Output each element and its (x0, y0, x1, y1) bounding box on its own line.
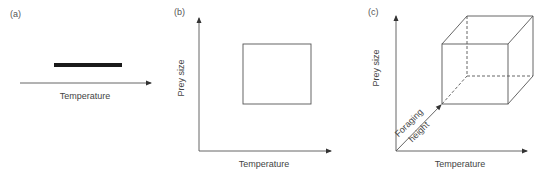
cube-edge (508, 16, 533, 44)
prey-size-axis-label: Prey size (176, 59, 186, 96)
panel-b-label: (b) (174, 7, 185, 17)
panel-c: (c) Prey size Foraging height Temperatur… (368, 7, 533, 169)
niche-dimension-figure: (a) Temperature (b) Prey size Temperatur… (0, 0, 546, 178)
panel-c-label: (c) (368, 7, 379, 17)
prey-size-axis-label: Prey size (371, 49, 381, 86)
panel-b: (b) Prey size Temperature (174, 7, 331, 169)
temperature-range-bar (54, 63, 122, 67)
temperature-axis-label: Temperature (239, 159, 290, 169)
panel-a: (a) Temperature (10, 9, 151, 101)
cube-front-face (442, 44, 508, 104)
temperature-axis-label: Temperature (435, 159, 486, 169)
cube-edge (508, 76, 533, 104)
niche-rectangle (243, 44, 311, 104)
niche-cube (442, 16, 533, 104)
cube-edge (442, 16, 467, 44)
temperature-axis-label: Temperature (60, 91, 111, 101)
cube-hidden-edge (442, 76, 467, 104)
panel-a-label: (a) (10, 9, 21, 19)
